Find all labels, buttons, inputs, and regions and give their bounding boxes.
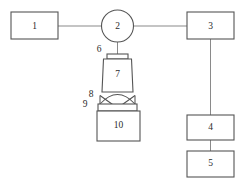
schematic-canvas: 1 2 3 4 5 6 7 8 9 10 (0, 0, 245, 187)
node-label-7: 7 (115, 69, 120, 79)
node-label-2: 2 (115, 21, 120, 31)
node-label-5: 5 (208, 158, 213, 168)
node-label-9: 9 (83, 99, 88, 109)
node-label-10: 10 (114, 120, 124, 130)
node-label-4: 4 (208, 122, 213, 132)
node-flange-6 (107, 54, 128, 59)
node-label-1: 1 (32, 21, 37, 31)
node-label-6: 6 (97, 44, 102, 54)
node-band-9 (98, 104, 137, 111)
schematic-diagram: 1 2 3 4 5 6 7 8 9 10 (0, 0, 245, 187)
node-label-8: 8 (89, 89, 94, 99)
node-label-3: 3 (208, 21, 213, 31)
